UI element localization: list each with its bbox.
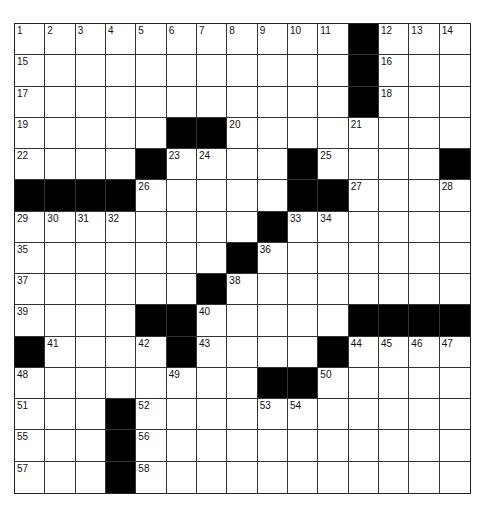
crossword-cell[interactable] — [379, 118, 409, 149]
crossword-cell[interactable] — [258, 118, 288, 149]
crossword-cell[interactable] — [227, 337, 257, 368]
crossword-cell[interactable] — [197, 368, 227, 399]
crossword-cell[interactable] — [227, 430, 257, 461]
crossword-cell[interactable]: 8 — [227, 24, 257, 55]
crossword-cell[interactable]: 43 — [197, 337, 227, 368]
crossword-cell[interactable] — [440, 399, 470, 430]
crossword-cell[interactable] — [76, 243, 106, 274]
crossword-cell[interactable] — [288, 243, 318, 274]
crossword-cell[interactable]: 5 — [136, 24, 166, 55]
crossword-cell[interactable] — [258, 180, 288, 211]
crossword-cell[interactable] — [106, 149, 136, 180]
crossword-cell[interactable] — [440, 118, 470, 149]
crossword-cell[interactable] — [76, 274, 106, 305]
crossword-cell[interactable]: 30 — [45, 212, 75, 243]
crossword-cell[interactable] — [318, 118, 348, 149]
crossword-cell[interactable] — [45, 430, 75, 461]
crossword-cell[interactable] — [45, 368, 75, 399]
crossword-cell[interactable] — [409, 399, 439, 430]
crossword-cell[interactable]: 41 — [45, 337, 75, 368]
crossword-cell[interactable]: 21 — [349, 118, 379, 149]
crossword-cell[interactable] — [106, 118, 136, 149]
crossword-cell[interactable]: 4 — [106, 24, 136, 55]
crossword-cell[interactable] — [288, 55, 318, 86]
crossword-cell[interactable] — [409, 430, 439, 461]
crossword-cell[interactable] — [288, 274, 318, 305]
crossword-cell[interactable] — [167, 274, 197, 305]
crossword-cell[interactable] — [318, 243, 348, 274]
crossword-cell[interactable] — [136, 55, 166, 86]
crossword-cell[interactable] — [409, 243, 439, 274]
crossword-cell[interactable]: 6 — [167, 24, 197, 55]
crossword-cell[interactable] — [349, 430, 379, 461]
crossword-cell[interactable] — [379, 274, 409, 305]
crossword-cell[interactable] — [409, 368, 439, 399]
crossword-cell[interactable] — [167, 180, 197, 211]
crossword-cell[interactable] — [379, 212, 409, 243]
crossword-cell[interactable] — [76, 368, 106, 399]
crossword-cell[interactable] — [76, 430, 106, 461]
crossword-cell[interactable]: 58 — [136, 462, 166, 493]
crossword-cell[interactable] — [440, 87, 470, 118]
crossword-cell[interactable]: 27 — [349, 180, 379, 211]
crossword-cell[interactable] — [349, 462, 379, 493]
crossword-cell[interactable] — [76, 149, 106, 180]
crossword-cell[interactable] — [440, 243, 470, 274]
crossword-cell[interactable]: 24 — [197, 149, 227, 180]
crossword-cell[interactable] — [45, 118, 75, 149]
crossword-cell[interactable]: 23 — [167, 149, 197, 180]
crossword-cell[interactable]: 32 — [106, 212, 136, 243]
crossword-cell[interactable] — [379, 180, 409, 211]
crossword-cell[interactable] — [379, 149, 409, 180]
crossword-cell[interactable] — [318, 87, 348, 118]
crossword-cell[interactable]: 47 — [440, 337, 470, 368]
crossword-cell[interactable] — [349, 243, 379, 274]
crossword-cell[interactable] — [45, 87, 75, 118]
crossword-cell[interactable]: 28 — [440, 180, 470, 211]
crossword-cell[interactable] — [227, 212, 257, 243]
crossword-cell[interactable] — [258, 87, 288, 118]
crossword-cell[interactable] — [136, 118, 166, 149]
crossword-cell[interactable] — [258, 274, 288, 305]
crossword-cell[interactable] — [409, 180, 439, 211]
crossword-cell[interactable]: 3 — [76, 24, 106, 55]
crossword-cell[interactable]: 51 — [15, 399, 45, 430]
crossword-cell[interactable] — [409, 55, 439, 86]
crossword-cell[interactable]: 55 — [15, 430, 45, 461]
crossword-cell[interactable]: 20 — [227, 118, 257, 149]
crossword-cell[interactable] — [136, 368, 166, 399]
crossword-cell[interactable] — [349, 212, 379, 243]
crossword-cell[interactable] — [227, 305, 257, 336]
crossword-cell[interactable]: 25 — [318, 149, 348, 180]
crossword-cell[interactable] — [197, 180, 227, 211]
crossword-cell[interactable] — [167, 462, 197, 493]
crossword-cell[interactable] — [45, 305, 75, 336]
crossword-cell[interactable] — [318, 399, 348, 430]
crossword-cell[interactable] — [227, 180, 257, 211]
crossword-cell[interactable] — [197, 462, 227, 493]
crossword-cell[interactable] — [379, 243, 409, 274]
crossword-cell[interactable] — [136, 87, 166, 118]
crossword-cell[interactable]: 16 — [379, 55, 409, 86]
crossword-cell[interactable]: 42 — [136, 337, 166, 368]
crossword-cell[interactable] — [106, 243, 136, 274]
crossword-cell[interactable] — [440, 274, 470, 305]
crossword-cell[interactable]: 26 — [136, 180, 166, 211]
crossword-cell[interactable] — [197, 399, 227, 430]
crossword-cell[interactable]: 9 — [258, 24, 288, 55]
crossword-cell[interactable] — [349, 149, 379, 180]
crossword-cell[interactable]: 39 — [15, 305, 45, 336]
crossword-cell[interactable] — [197, 55, 227, 86]
crossword-cell[interactable]: 2 — [45, 24, 75, 55]
crossword-cell[interactable]: 17 — [15, 87, 45, 118]
crossword-cell[interactable]: 19 — [15, 118, 45, 149]
crossword-cell[interactable] — [440, 462, 470, 493]
crossword-cell[interactable] — [288, 430, 318, 461]
crossword-cell[interactable] — [318, 430, 348, 461]
crossword-cell[interactable] — [45, 55, 75, 86]
crossword-cell[interactable]: 29 — [15, 212, 45, 243]
crossword-cell[interactable]: 46 — [409, 337, 439, 368]
crossword-cell[interactable] — [409, 212, 439, 243]
crossword-cell[interactable] — [258, 430, 288, 461]
crossword-cell[interactable] — [76, 87, 106, 118]
